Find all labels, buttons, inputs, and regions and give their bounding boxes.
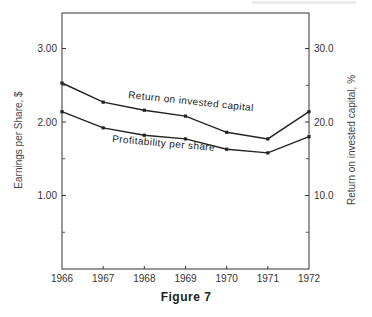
data-point-marker [184,115,187,118]
x-tick-label: 1970 [216,273,239,284]
left-tick-label: 2.00 [38,117,58,128]
data-point-marker [225,131,228,134]
left-tick-label: 1.00 [38,190,58,201]
data-point-marker [102,101,105,104]
left-tick-label: 3.00 [38,43,58,54]
data-point-marker [266,151,269,154]
data-point-marker [60,110,63,113]
line-chart: 3.002.001.00 30.020.010.0 19661967196819… [0,0,372,317]
series-label-pps: Profitability per share [112,133,216,153]
series-label-roic: Return on invested capital [128,89,254,113]
right-axis-title: Return on invested capital, % [346,75,357,205]
data-point-marker [60,81,63,84]
right-tick-label: 30.0 [314,43,334,54]
left-axis-title: Earnings per Share, $ [13,91,24,189]
x-tick-label: 1969 [174,273,197,284]
x-tick-label: 1971 [257,273,280,284]
series-line [62,83,309,139]
figure-caption: Figure 7 [161,290,212,304]
right-tick-label: 10.0 [314,190,334,201]
x-tick-label: 1968 [133,273,156,284]
data-point-marker [266,137,269,140]
data-point-marker [143,109,146,112]
faded-header-text [252,1,356,4]
data-point-marker [307,135,310,138]
x-tick-label: 1967 [92,273,115,284]
x-tick-label: 1966 [51,273,74,284]
x-tick-label: 1972 [298,273,321,284]
data-point-marker [102,126,105,129]
data-point-marker [225,148,228,151]
right-tick-label: 20.0 [314,117,334,128]
data-point-marker [307,110,310,113]
